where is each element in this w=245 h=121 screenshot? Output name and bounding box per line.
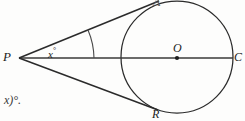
center-dot — [175, 56, 179, 60]
label-point-c: C — [234, 51, 242, 63]
degree-symbol: ° — [53, 46, 56, 55]
tangent-line-lower — [19, 58, 158, 110]
label-point-r: R — [152, 108, 159, 120]
clipped-text-fragment: x)°. — [4, 94, 21, 106]
geometry-canvas — [0, 0, 245, 121]
label-point-a: A — [153, 0, 160, 8]
label-angle-x: x° — [48, 47, 56, 60]
label-point-o: O — [173, 42, 182, 54]
geometry-figure: P A R O C x° x)°. — [0, 0, 245, 121]
label-point-p: P — [3, 50, 11, 63]
angle-arc — [88, 30, 94, 58]
tangent-line-upper — [19, 1, 159, 58]
